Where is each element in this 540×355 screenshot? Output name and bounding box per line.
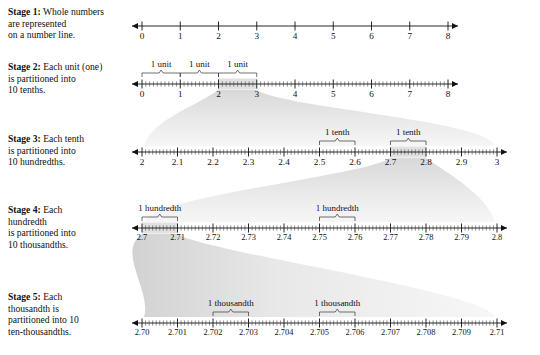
- stage-5-brace-label: 1 thousandth: [208, 298, 255, 308]
- stage-2-tick-label: 1: [178, 89, 183, 99]
- stage-5-tick-label: 2.709: [452, 328, 471, 337]
- stage-3-tick-label: 2.7: [385, 157, 397, 167]
- stage-4-tick-label: 2.77: [383, 233, 398, 242]
- left-arrow-icon: [132, 23, 138, 29]
- brace-icon: [180, 70, 218, 77]
- stage-2-tick-label: 5: [331, 89, 336, 99]
- stage-2-tick-label: 2: [216, 89, 221, 99]
- stage-1-tick-label: 5: [331, 31, 336, 41]
- stage-3-tick-label: 2.2: [207, 157, 219, 167]
- stage-2-number-line: 0123456781 unit1 unit1 unit: [132, 59, 458, 99]
- left-arrow-icon: [132, 149, 138, 155]
- stage-3-tick-label: 2.1: [172, 157, 184, 167]
- stage-3-tick-label: 2.8: [420, 157, 432, 167]
- stage-1-tick-label: 7: [407, 31, 412, 41]
- funnel-shading-layer: [132, 90, 495, 317]
- left-arrow-icon: [132, 320, 138, 326]
- diagram-root: Stage 1: Whole numbers are represented o…: [0, 0, 540, 355]
- stage-4-tick-label: 2.76: [348, 233, 363, 242]
- stage-3-brace-label: 1 tenth: [325, 127, 350, 137]
- right-arrow-icon: [501, 149, 507, 155]
- stage-5-tick-label: 2.704: [275, 328, 295, 337]
- stage-5-tick-label: 2.701: [168, 328, 187, 337]
- stage-4-tick-label: 2.73: [241, 233, 256, 242]
- stage-5-tick-label: 2.706: [346, 328, 365, 337]
- stage-2-brace-label: 1 unit: [227, 59, 248, 69]
- stage-2-tick-label: 7: [407, 89, 412, 99]
- stage-4-tick-label: 2.71: [170, 233, 185, 242]
- stage-4-tick-label: 2.7: [137, 233, 147, 242]
- stage-4-brace-label: 1 hundredth: [138, 203, 182, 213]
- stage-3-tick-label: 2.4: [278, 157, 290, 167]
- stage-5-tick-label: 2.702: [204, 328, 223, 337]
- stage-2-brace-label: 1 unit: [189, 59, 210, 69]
- stage-4-tick-label: 2.79: [454, 233, 469, 242]
- stage-2-tick-label: 3: [254, 89, 259, 99]
- stage-1-tick-label: 0: [140, 31, 145, 41]
- stage-2-tick-label: 6: [369, 89, 374, 99]
- stage-5-brace-label: 1 thousandth: [314, 298, 361, 308]
- stage-3-tick-label: 2: [140, 157, 145, 167]
- stage-1-tick-label: 8: [446, 31, 451, 41]
- left-arrow-icon: [132, 225, 138, 231]
- stage-5-tick-label: 2.708: [417, 328, 436, 337]
- stage-5-tick-label: 2.71: [490, 328, 505, 337]
- stage-3-tick-label: 2.3: [243, 157, 255, 167]
- stage-1-tick-label: 6: [369, 31, 374, 41]
- number-line-diagram: 0123456780123456781 unit1 unit1 unit22.1…: [0, 0, 540, 355]
- right-arrow-icon: [501, 320, 507, 326]
- stage-1-tick-label: 4: [293, 31, 298, 41]
- left-arrow-icon: [132, 81, 138, 87]
- right-arrow-icon: [452, 81, 458, 87]
- stage-1-tick-label: 2: [216, 31, 221, 41]
- stage-3-tick-label: 3: [495, 157, 500, 167]
- stage-2-brace-label: 1 unit: [151, 59, 172, 69]
- stage-5-tick-label: 2.705: [310, 328, 329, 337]
- stage-4-brace-label: 1 hundredth: [316, 203, 360, 213]
- stage-1-tick-label: 1: [178, 31, 183, 41]
- stage-5-tick-label: 2.70: [135, 328, 150, 337]
- stage-1-tick-label: 3: [254, 31, 259, 41]
- stage-5-tick-label: 2.707: [381, 328, 400, 337]
- stage-3-tick-label: 2.5: [314, 157, 326, 167]
- stage-1-number-line: 012345678: [132, 22, 458, 42]
- stage-2-tick-label: 4: [293, 89, 298, 99]
- brace-icon: [219, 70, 257, 77]
- stage-3-tick-label: 2.6: [349, 157, 361, 167]
- stage-4-tick-label: 2.75: [312, 233, 327, 242]
- right-arrow-icon: [501, 225, 507, 231]
- stage-5-tick-label: 2.703: [239, 328, 258, 337]
- right-arrow-icon: [452, 23, 458, 29]
- stage-2-tick-label: 8: [446, 89, 451, 99]
- stage-4-tick-label: 2.8: [492, 233, 502, 242]
- stage-3-brace-label: 1 tenth: [396, 127, 421, 137]
- zoom-funnel-shape: [144, 90, 495, 146]
- stage-4-tick-label: 2.72: [206, 233, 221, 242]
- stage-4-tick-label: 2.78: [419, 233, 434, 242]
- brace-icon: [142, 70, 180, 77]
- stage-2-tick-label: 0: [140, 89, 145, 99]
- stage-3-tick-label: 2.9: [456, 157, 468, 167]
- stage-4-tick-label: 2.74: [277, 233, 292, 242]
